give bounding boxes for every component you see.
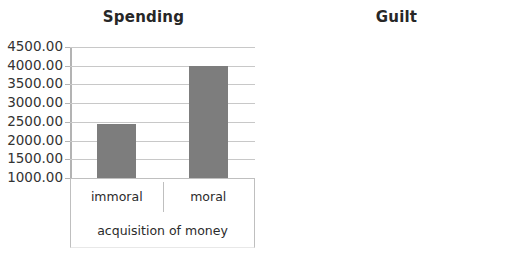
bar-moral: [189, 66, 228, 178]
chart-panel-spending: Spending 4500.004000.003500.003000.00250…: [0, 0, 259, 270]
chart-screenshot: Spending 4500.004000.003500.003000.00250…: [0, 0, 518, 270]
category-table-spending: immoral moral acquisition of money: [70, 178, 255, 248]
y-tick-label: 2000.00: [7, 134, 63, 148]
y-tick-label: 3000.00: [7, 96, 63, 110]
category-row-spending: immoral moral: [71, 179, 254, 213]
chart-title-spending: Spending: [0, 8, 259, 26]
y-tick-label: 1500.00: [7, 152, 63, 166]
y-tick-label: 3500.00: [7, 77, 63, 91]
y-tick-label: 4000.00: [7, 59, 63, 73]
category-label-moral: moral: [163, 179, 255, 213]
x-axis-label-spending: acquisition of money: [71, 213, 254, 248]
chart-panel-guilt: Guilt 6.005.004.003.002.001.00 immoral m…: [259, 0, 518, 270]
plot-area-spending: 4500.004000.003500.003000.002500.002000.…: [70, 47, 255, 178]
y-tick-label: 2500.00: [7, 115, 63, 129]
y-tick-label: 4500.00: [7, 40, 63, 54]
category-divider: [163, 182, 164, 212]
bar-immoral: [97, 124, 136, 178]
chart-title-guilt: Guilt: [259, 8, 518, 26]
gridline-4500.00: 4500.00: [70, 47, 255, 48]
category-label-immoral: immoral: [71, 179, 163, 213]
y-tick-label: 1000.00: [7, 171, 63, 185]
